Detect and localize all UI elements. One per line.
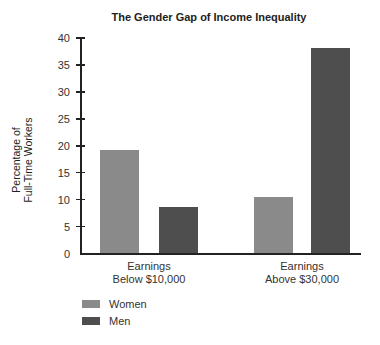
y-tick-mark	[76, 64, 85, 66]
y-tick-mark	[76, 37, 85, 39]
y-tick-label: 30	[48, 86, 70, 98]
bar-men-below-10000	[159, 207, 198, 253]
category-label-line: Earnings	[242, 260, 362, 273]
y-tick-label: 5	[48, 221, 70, 233]
y-tick-label: 40	[48, 32, 70, 44]
legend-item-men: Men	[82, 313, 147, 329]
y-tick-mark	[76, 91, 85, 93]
category-label-below-10000: Earnings Below $10,000	[89, 260, 209, 286]
y-tick-mark	[76, 172, 85, 174]
y-tick-label: 20	[48, 140, 70, 152]
y-tick-label: 35	[48, 59, 70, 71]
legend-label-women: Women	[109, 298, 147, 310]
y-tick-label: 0	[48, 248, 70, 260]
y-tick-label: 15	[48, 167, 70, 179]
legend-swatch-men	[82, 317, 100, 325]
category-label-line: Above $30,000	[242, 273, 362, 286]
bar-women-below-10000	[100, 150, 139, 254]
legend-label-men: Men	[109, 315, 130, 327]
legend: Women Men	[82, 296, 147, 330]
y-tick-mark	[76, 199, 85, 201]
legend-swatch-women	[82, 300, 100, 308]
category-label-line: Earnings	[89, 260, 209, 273]
y-axis-label: Percentage of Full-Time Workers	[10, 105, 40, 215]
legend-item-women: Women	[82, 296, 147, 312]
bar-men-above-30000	[311, 48, 350, 253]
y-tick-label: 10	[48, 194, 70, 206]
y-tick-label: 25	[48, 113, 70, 125]
y-axis-label-line-2: Full-Time Workers	[22, 105, 34, 215]
chart-title: The Gender Gap of Income Inequality	[0, 11, 380, 23]
category-label-above-30000: Earnings Above $30,000	[242, 260, 362, 286]
bar-women-above-30000	[254, 197, 293, 253]
y-tick-mark	[76, 118, 85, 120]
y-tick-mark	[76, 226, 85, 228]
y-axis-label-line-1: Percentage of	[10, 105, 22, 215]
y-tick-mark	[76, 145, 85, 147]
category-label-line: Below $10,000	[89, 273, 209, 286]
